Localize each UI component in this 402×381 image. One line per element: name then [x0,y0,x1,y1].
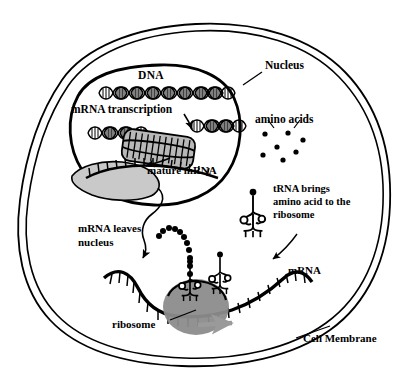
svg-text:tRNA brings: tRNA brings [273,183,330,194]
label-mrna-transcription: mRNA transcription [71,103,173,116]
nucleus-leader [243,72,262,85]
label-ribosome: ribosome [112,318,156,330]
label-dna: DNA [138,69,164,81]
ribosome-direction-arrow [198,323,232,325]
label-mrna-leaves-nucleus: mRNA leaves nucleus [78,222,142,248]
polypeptide-chain [156,225,193,277]
label-amino-acids: amino acids [255,113,314,125]
label-mature-mrna: mature mRNA [147,164,217,176]
trna-leader [273,234,297,259]
cell-diagram: Nucleus DNA mRNA transcription mature mR… [0,0,402,381]
label-mrna: mRNA [288,264,321,276]
transcription-arrow [184,114,192,129]
svg-text:nucleus: nucleus [78,236,114,248]
dna-double-helix [99,87,235,99]
free-trna [240,189,265,238]
svg-text:amino acid to the: amino acid to the [273,196,351,207]
label-cell-membrane: Cell Membrane [303,332,377,344]
diagram-canvas: Nucleus DNA mRNA transcription mature mR… [0,0,402,381]
svg-text:mRNA leaves: mRNA leaves [78,222,142,234]
label-nucleus: Nucleus [265,59,305,71]
label-trna-brings: tRNA brings amino acid to the ribosome [273,183,351,220]
svg-text:ribosome: ribosome [273,209,315,220]
amino-acid-dots [260,120,305,163]
